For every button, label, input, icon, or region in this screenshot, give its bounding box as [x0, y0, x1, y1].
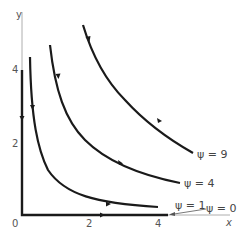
x-tick-4: 4: [155, 219, 161, 229]
arrow-icon: [157, 118, 162, 123]
x-tick-2: 2: [86, 219, 92, 229]
curve-psi-1: [30, 57, 158, 207]
arrow-icon: [20, 116, 25, 121]
label-psi-4: ψ = 4: [184, 178, 214, 189]
y-tick-4: 4: [12, 65, 18, 75]
arrow-icon: [30, 105, 35, 110]
x-axis-label: x: [226, 218, 232, 228]
curve-psi-0: [22, 70, 168, 215]
curve-psi-9: [83, 25, 193, 153]
curve-psi-4: [50, 45, 180, 183]
y-axis-label: y: [16, 10, 22, 20]
streamline-chart: y x 4 2 0 2 4 ψ = 9 ψ = 4 ψ = 1 ψ = 0: [0, 0, 239, 242]
y-tick-2: 2: [12, 139, 18, 149]
label-psi-9: ψ = 9: [197, 149, 227, 160]
label-psi-1: ψ = 1: [175, 200, 205, 211]
origin-label: 0: [12, 219, 18, 229]
label-psi-0: ψ = 0: [206, 203, 236, 214]
arrow-icon: [100, 213, 105, 218]
